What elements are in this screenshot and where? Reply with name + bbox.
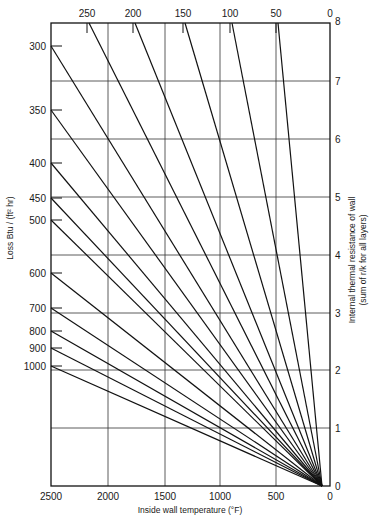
left-tick-label: 450 [29, 193, 46, 204]
grid-lines [51, 23, 330, 486]
top-tick-label: 0 [327, 8, 333, 19]
left-tick-label: 700 [29, 303, 46, 314]
plot-frame [51, 23, 330, 486]
nomograph-line-350 [51, 110, 322, 486]
nomograph-line-500 [51, 220, 322, 486]
y2-tick-label: 0 [335, 481, 341, 492]
y2-tick-label: 6 [335, 134, 341, 145]
left-tick-label: 800 [29, 326, 46, 337]
top-tick-label: 200 [125, 8, 142, 19]
y2-tick-label: 4 [335, 250, 341, 261]
top-tick-label: 150 [175, 8, 192, 19]
left-tick-label: 300 [29, 41, 46, 52]
y2-tick-label: 1 [335, 423, 341, 434]
left-tick-label: 400 [29, 158, 46, 169]
x-tick-label: 2500 [40, 491, 63, 502]
left-tick-label: 1000 [24, 361, 47, 372]
y2-axis-subtitle: (sum of r/k for all layers) [358, 214, 368, 305]
nomograph-line-800 [51, 331, 322, 486]
top-tick-label: 50 [270, 8, 282, 19]
nomograph-line-700 [51, 308, 322, 486]
nomograph-line-450 [51, 198, 322, 486]
left-tick-label: 500 [29, 215, 46, 226]
x-tick-label: 0 [327, 491, 333, 502]
y2-tick-label: 8 [335, 16, 341, 27]
nomograph-line-100 [232, 23, 322, 486]
y2-tick-label: 3 [335, 308, 341, 319]
left-tick-label: 900 [29, 343, 46, 354]
x-axis-title: Inside wall temperature (°F) [138, 505, 243, 515]
nomograph-line-400 [51, 163, 322, 486]
nomograph-chart: 2500200015001000500001234567825020015010… [0, 0, 379, 521]
y-axis-title: Loss Btu / (ft² hr) [5, 196, 15, 259]
nomograph-line-600 [51, 273, 322, 486]
y2-tick-label: 2 [335, 365, 341, 376]
y2-tick-label: 5 [335, 192, 341, 203]
left-tick-label: 600 [29, 268, 46, 279]
top-tick-label: 250 [79, 8, 96, 19]
nomograph-lines [51, 23, 322, 486]
top-tick-label: 100 [222, 8, 239, 19]
x-tick-label: 1500 [154, 491, 177, 502]
x-tick-label: 2000 [97, 491, 120, 502]
left-tick-label: 350 [29, 105, 46, 116]
nomograph-line-200 [135, 23, 322, 486]
nomograph-line-300 [51, 46, 322, 486]
nomograph-line-50 [278, 23, 322, 486]
x-tick-label: 1000 [209, 491, 232, 502]
y2-tick-label: 7 [335, 76, 341, 87]
y2-axis-title: Internal thermal resistance of wall [347, 197, 357, 324]
nomograph-line-900 [51, 348, 322, 486]
x-tick-label: 500 [268, 491, 285, 502]
plot-border [51, 23, 330, 486]
